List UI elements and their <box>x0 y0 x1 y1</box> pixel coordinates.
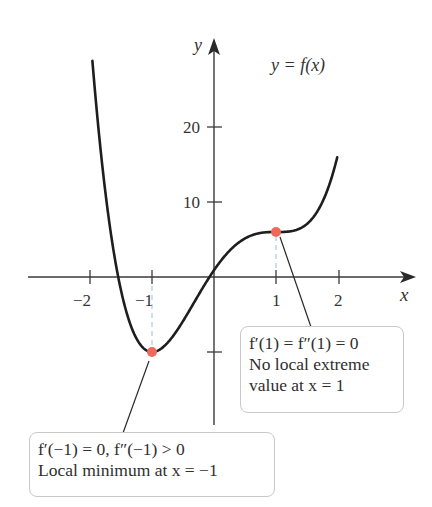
pointer-line-inflection <box>280 237 311 327</box>
function-curve <box>92 61 337 352</box>
annotation-inflection: f′(1) = f″(1) = 0 No local extreme value… <box>240 326 404 413</box>
x-tick-label-neg1: −1 <box>135 292 153 309</box>
x-tick-label-neg2: −2 <box>73 292 91 309</box>
annotation-inflection-line3: value at x = 1 <box>249 375 395 396</box>
annotation-inflection-line2: No local extreme <box>249 354 395 375</box>
x-tick-label-2: 2 <box>334 292 343 309</box>
inflection-point <box>271 227 281 237</box>
pointer-line-minimum <box>123 361 149 433</box>
x-tick-label-1: 1 <box>272 292 281 309</box>
annotation-inflection-line1: f′(1) = f″(1) = 0 <box>249 333 395 354</box>
curve-label-text: y = f(x) <box>271 55 325 75</box>
x-axis-label: x <box>400 285 408 304</box>
y-axis-label: y <box>194 36 202 54</box>
annotation-minimum-line1: f′(−1) = 0, f″(−1) > 0 <box>38 439 266 460</box>
local-minimum-point <box>147 347 157 357</box>
plot-area <box>0 0 432 507</box>
annotation-minimum: f′(−1) = 0, f″(−1) > 0 Local minimum at … <box>29 432 275 497</box>
y-tick-label-10: 10 <box>183 194 200 211</box>
chart-figure: y x y = f(x) 20 10 −2 −1 1 2 f′(1) = f″(… <box>0 0 432 507</box>
y-tick-label-20: 20 <box>183 119 200 136</box>
curve-label: y = f(x) <box>271 56 325 74</box>
annotation-minimum-line2: Local minimum at x = −1 <box>38 460 266 481</box>
